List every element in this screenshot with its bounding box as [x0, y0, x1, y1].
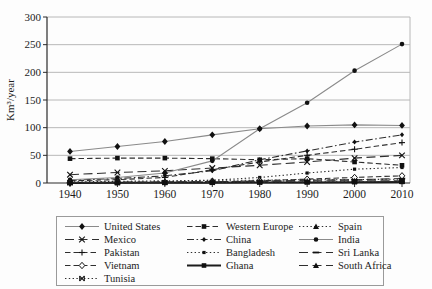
legend-key-sri-lanka: [298, 247, 334, 258]
legend-united-states-diamond-marker: [79, 223, 85, 230]
x-tick-label: 1970: [201, 188, 224, 200]
series-india-circle-marker: [257, 126, 262, 131]
legend-item-spain: Spain: [298, 220, 390, 233]
legend-key-bangladesh: [186, 247, 222, 258]
legend-key-pakistan: [64, 247, 100, 258]
marker-shape: [352, 68, 357, 73]
series-lines: [70, 44, 402, 183]
x-tick-label: 1960: [153, 188, 176, 200]
marker-shape: [400, 166, 403, 169]
y-tick-label: 50: [30, 149, 42, 161]
legend-label-south-africa: South Africa: [338, 260, 391, 272]
legend-item-india: India: [298, 233, 390, 246]
legend-key-spain: [298, 221, 334, 232]
legend-item-sri-lanka: Sri Lanka: [298, 246, 390, 259]
chart-plot-area: 0501001502002503001940195019601970198019…: [0, 0, 432, 213]
y-tick-label: 250: [25, 38, 42, 50]
series-line-western-europe: [70, 158, 402, 165]
marker-shape: [352, 140, 356, 145]
legend-key-south-africa: [298, 260, 334, 271]
legend-western-europe-square-marker: [202, 224, 207, 229]
marker-shape: [115, 156, 120, 161]
marker-shape: [400, 132, 404, 137]
series-western-europe-square-marker: [115, 156, 120, 161]
axis-tick-labels: 0501001502002503001940195019601970198019…: [25, 11, 414, 201]
legend-label-vietnam: Vietnam: [104, 260, 140, 272]
series-western-europe-square-marker: [163, 156, 168, 161]
x-tick-label: 1950: [106, 188, 129, 200]
y-tick-label: 150: [25, 94, 42, 106]
legend-item-pakistan: Pakistan: [64, 246, 186, 259]
x-tick-label: 2010: [391, 188, 414, 200]
y-tick-label: 200: [25, 66, 42, 78]
legend-label-china: China: [226, 234, 251, 246]
marker-shape: [210, 159, 215, 164]
series-united-states-diamond-marker: [209, 131, 215, 138]
legend-label-tunisia: Tunisia: [104, 273, 135, 285]
x-tick-label: 1990: [296, 188, 319, 200]
legend-label-spain: Spain: [338, 221, 362, 233]
gridlines: [47, 17, 410, 155]
series-pakistan-plus-marker: [399, 140, 405, 146]
marker-shape: [79, 262, 85, 268]
marker-shape: [67, 148, 73, 155]
marker-shape: [202, 251, 205, 254]
series-bangladesh-small-square-marker: [400, 166, 403, 169]
marker-shape: [163, 156, 168, 161]
chart-legend: United StatesWestern EuropeSpainMexicoCh…: [56, 216, 384, 286]
legend-bangladesh-small-square-marker: [202, 251, 205, 254]
marker-shape: [202, 237, 206, 242]
series-line-china: [70, 135, 402, 180]
legend-item-tunisia: Tunisia: [64, 272, 186, 285]
series-china-small-diamond-marker: [400, 132, 404, 137]
marker-shape: [304, 123, 310, 130]
marker-shape: [209, 131, 215, 138]
legend-item-vietnam: Vietnam: [64, 259, 186, 272]
marker-shape: [257, 126, 262, 131]
series-bangladesh-small-square-marker: [306, 171, 309, 174]
legend-label-pakistan: Pakistan: [104, 247, 140, 259]
series-united-states-diamond-marker: [304, 123, 310, 130]
x-tick-label: 1980: [248, 188, 271, 200]
legend-india-circle-marker: [314, 237, 319, 242]
x-tick-label: 2000: [343, 188, 366, 200]
legend-key-mexico: [64, 234, 100, 245]
marker-shape: [400, 42, 405, 47]
series-india-circle-marker: [400, 42, 405, 47]
legend-item-bangladesh: Bangladesh: [186, 246, 298, 259]
legend-item-united-states: United States: [64, 220, 186, 233]
legend-key-india: [298, 234, 334, 245]
series-india-circle-marker: [352, 68, 357, 73]
x-tick-label: 1940: [59, 188, 82, 200]
legend-item-china: China: [186, 233, 298, 246]
series-united-states-diamond-marker: [162, 138, 168, 145]
legend-key-ghana: [186, 260, 222, 271]
legend-label-mexico: Mexico: [104, 234, 136, 246]
series-western-europe-square-marker: [68, 156, 73, 161]
marker-shape: [79, 223, 85, 230]
y-axis-title: Km³/year: [4, 79, 16, 121]
legend-label-sri-lanka: Sri Lanka: [338, 247, 379, 259]
legend-ghana-square-marker: [202, 263, 207, 268]
y-tick-label: 300: [25, 11, 42, 23]
series-united-states-diamond-marker: [67, 148, 73, 155]
y-tick-label: 100: [25, 121, 42, 133]
legend-label-bangladesh: Bangladesh: [226, 247, 275, 259]
marker-shape: [68, 156, 73, 161]
legend-label-western-europe: Western Europe: [226, 221, 293, 233]
series-line-united-states: [70, 125, 402, 152]
legend-key-western-europe: [186, 221, 222, 232]
marker-shape: [202, 263, 207, 268]
legend-china-small-diamond-marker: [202, 237, 206, 242]
marker-shape: [202, 224, 207, 229]
series-bangladesh-small-square-marker: [353, 168, 356, 171]
marker-shape: [314, 237, 319, 242]
marker-shape: [162, 138, 168, 145]
series-pakistan-plus-marker: [209, 167, 215, 173]
series-united-states-diamond-marker: [115, 143, 121, 150]
marker-shape: [353, 168, 356, 171]
series-india-circle-marker: [305, 100, 310, 105]
legend-item-mexico: Mexico: [64, 233, 186, 246]
legend-key-united-states: [64, 221, 100, 232]
legend-item-south-africa: South Africa: [298, 259, 390, 272]
